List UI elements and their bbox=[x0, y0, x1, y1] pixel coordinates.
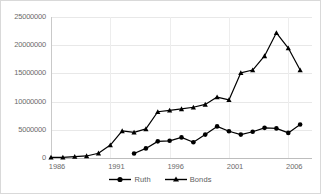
y-axis-tick-label: 10000000 bbox=[1, 97, 46, 106]
data-point-ruth bbox=[227, 129, 232, 134]
plot-area bbox=[51, 17, 312, 158]
legend-item-ruth[interactable]: Ruth bbox=[109, 175, 150, 184]
x-axis-tick-label: 1991 bbox=[108, 162, 124, 171]
x-axis-tick-label: 1996 bbox=[167, 162, 183, 171]
data-point-ruth bbox=[239, 132, 244, 137]
series-svg bbox=[51, 17, 312, 158]
data-point-ruth bbox=[262, 126, 267, 131]
chart-legend: Ruth Bonds bbox=[1, 175, 320, 184]
data-point-ruth bbox=[132, 151, 137, 156]
y-axis-tick-label: 0 bbox=[1, 153, 46, 162]
data-point-ruth bbox=[250, 129, 255, 134]
y-axis-tick-label: 25000000 bbox=[1, 12, 46, 21]
data-point-bonds bbox=[274, 30, 279, 35]
legend-item-bonds[interactable]: Bonds bbox=[165, 175, 212, 184]
data-point-ruth bbox=[215, 124, 220, 129]
data-point-bonds bbox=[298, 67, 303, 72]
data-point-ruth bbox=[167, 139, 172, 144]
y-axis-tick-label: 5000000 bbox=[1, 125, 46, 134]
legend-marker-circle-icon bbox=[109, 175, 131, 184]
x-axis-tick-label: 2006 bbox=[286, 162, 302, 171]
legend-label-ruth: Ruth bbox=[134, 175, 150, 184]
data-point-ruth bbox=[155, 139, 160, 144]
data-point-bonds bbox=[203, 102, 208, 107]
y-axis-tick-label: 20000000 bbox=[1, 40, 46, 49]
data-point-ruth bbox=[191, 140, 196, 145]
x-axis-tick-label: 1986 bbox=[49, 162, 65, 171]
legend-label-bonds: Bonds bbox=[190, 175, 212, 184]
data-point-bonds bbox=[262, 53, 267, 58]
data-point-ruth bbox=[274, 126, 279, 131]
x-axis-tick-label: 2001 bbox=[227, 162, 243, 171]
data-point-ruth bbox=[286, 131, 291, 136]
data-point-ruth bbox=[144, 146, 149, 151]
y-axis-tick-label: 15000000 bbox=[1, 68, 46, 77]
x-axis-line bbox=[51, 158, 312, 159]
data-point-bonds bbox=[214, 94, 219, 99]
legend-marker-triangle-icon bbox=[165, 175, 187, 184]
data-point-ruth bbox=[298, 122, 303, 127]
data-point-ruth bbox=[179, 135, 184, 140]
data-point-ruth bbox=[203, 132, 208, 137]
salary-comparison-line-chart: 0500000010000000150000002000000025000000… bbox=[0, 0, 321, 194]
